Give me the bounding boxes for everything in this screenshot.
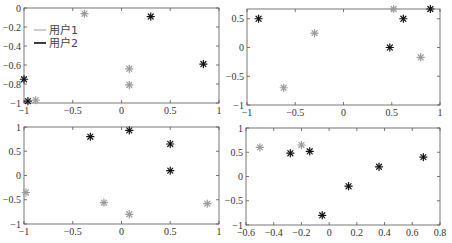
x-tick-label: −0.5 [64, 226, 82, 237]
series-用户1 [22, 189, 211, 218]
star-marker [319, 212, 326, 219]
panel-top-right: −1−0.500.510.50−0.5−1 [226, 5, 443, 118]
x-tick-label: −0.2 [292, 227, 310, 238]
star-marker [280, 84, 287, 91]
star-marker [345, 183, 352, 190]
star-marker [298, 141, 305, 148]
y-tick-label: 0 [16, 3, 21, 14]
star-marker [24, 98, 31, 105]
star-marker [87, 133, 94, 140]
legend-label: 用户1 [49, 23, 78, 37]
star-marker [167, 167, 174, 174]
star-marker [417, 54, 424, 61]
star-marker [390, 5, 397, 12]
star-marker [126, 211, 133, 218]
star-marker [311, 30, 318, 37]
x-tick-label: 0.6 [406, 227, 419, 238]
y-tick-label: 0 [16, 170, 21, 181]
x-tick-label: 1 [217, 105, 222, 116]
star-marker [386, 44, 393, 51]
x-tick-label: 0 [327, 227, 332, 238]
y-tick-label: −0.2 [3, 22, 21, 33]
y-tick-label: −0.5 [226, 71, 244, 82]
axes-frame [246, 128, 440, 225]
star-marker [20, 76, 27, 83]
star-marker [22, 189, 29, 196]
series-用户2 [87, 127, 174, 174]
star-marker [126, 127, 133, 134]
x-tick-label: 0.5 [386, 107, 399, 118]
y-tick-label: −1 [10, 219, 21, 230]
star-marker [287, 150, 294, 157]
x-tick-label: 0.5 [164, 226, 177, 237]
y-tick-label: −1 [233, 100, 244, 111]
star-marker [306, 148, 313, 155]
star-marker [147, 13, 154, 20]
x-tick-label: −0.5 [286, 107, 304, 118]
y-tick-label: 1 [16, 122, 21, 133]
y-tick-label: 0.5 [9, 146, 22, 157]
series-用户2 [287, 148, 427, 219]
star-marker [255, 15, 262, 22]
x-tick-label: 0.5 [164, 105, 177, 116]
x-tick-label: 1 [217, 226, 222, 237]
series-用户1 [256, 141, 305, 151]
y-tick-label: 0 [239, 42, 244, 53]
axes-frame [24, 127, 219, 224]
star-marker [167, 140, 174, 147]
star-marker [400, 15, 407, 22]
x-tick-label: 0.4 [378, 227, 391, 238]
x-tick-label: 0 [119, 226, 124, 237]
x-tick-label: 1 [438, 107, 443, 118]
y-tick-label: −0.5 [3, 194, 21, 205]
y-tick-label: −0.5 [225, 195, 243, 206]
star-marker [32, 97, 39, 104]
scatter-figure: −1−0.500.510−0.2−0.4−0.6−0.8−1 −1−0.500.… [0, 0, 452, 243]
y-tick-label: −0.6 [3, 60, 21, 71]
y-tick-label: −1 [232, 220, 243, 231]
star-marker [100, 199, 107, 206]
series-用户2 [255, 5, 434, 51]
y-tick-label: 0 [238, 171, 243, 182]
x-tick-label: 0.2 [351, 227, 364, 238]
star-marker [126, 81, 133, 88]
star-marker [204, 200, 211, 207]
x-tick-label: 0 [341, 107, 346, 118]
star-marker [81, 10, 88, 17]
y-tick-label: 1 [238, 123, 243, 134]
y-tick-label: −1 [10, 98, 21, 109]
panel-bottom-left: −1−0.500.5110.50−0.5−1 [3, 122, 222, 238]
y-tick-label: −0.4 [3, 41, 21, 52]
star-marker [200, 60, 207, 67]
star-marker [126, 65, 133, 72]
legend-label: 用户2 [49, 36, 78, 50]
star-marker [375, 163, 382, 170]
axes-frame [24, 8, 219, 103]
x-tick-label: 0.8 [434, 227, 447, 238]
series-用户1 [32, 10, 133, 104]
star-marker [427, 5, 434, 12]
axes-frame [247, 9, 440, 105]
x-tick-label: −0.5 [64, 105, 82, 116]
y-tick-label: 0.5 [232, 13, 245, 24]
star-marker [256, 144, 263, 151]
panel-top-left: −1−0.500.510−0.2−0.4−0.6−0.8−1 [3, 3, 222, 117]
star-marker [420, 154, 427, 161]
y-tick-label: −0.8 [3, 79, 21, 90]
x-tick-label: 0 [119, 105, 124, 116]
x-tick-label: −0.4 [265, 227, 283, 238]
legend: 用户1用户2 [34, 23, 78, 50]
y-tick-label: 0.5 [231, 147, 244, 158]
panel-bottom-right: −0.6−0.4−0.200.20.40.60.810.50−0.5−1 [225, 123, 446, 239]
